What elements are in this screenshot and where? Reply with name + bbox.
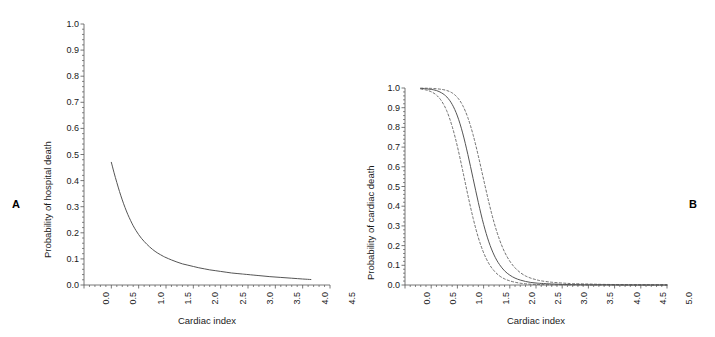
- y-tick-label: 0.2: [378, 241, 400, 251]
- x-tick-label: 1.0: [155, 292, 165, 305]
- y-tick-label: 0.4: [57, 176, 79, 186]
- y-tick-label: 0.1: [378, 260, 400, 270]
- x-tick-label: 0.0: [101, 292, 111, 305]
- y-tick-label: 0.8: [378, 122, 400, 132]
- y-tick-label: 0.9: [57, 45, 79, 55]
- panel-a-plot: [0, 0, 358, 337]
- y-tick-label: 0.3: [378, 221, 400, 231]
- y-tick-label: 0.7: [378, 142, 400, 152]
- x-tick-label: 2.0: [526, 292, 536, 305]
- y-tick-label: 0.4: [378, 201, 400, 211]
- x-tick-label: 0.0: [422, 292, 432, 305]
- panel-b: B Probability of cardiac death Cardiac i…: [357, 0, 715, 337]
- x-tick-label: 4.0: [319, 292, 329, 305]
- x-tick-label: 5.0: [684, 292, 694, 305]
- y-tick-label: 0.8: [57, 71, 79, 81]
- x-tick-label: 4.5: [347, 292, 357, 305]
- x-tick-label: 1.5: [500, 292, 510, 305]
- panel-b-plot: [357, 0, 715, 337]
- y-tick-label: 0.6: [57, 123, 79, 133]
- x-tick-label: 1.0: [474, 292, 484, 305]
- x-tick-label: 3.0: [579, 292, 589, 305]
- x-tick-label: 0.5: [448, 292, 458, 305]
- y-tick-label: 0.3: [57, 202, 79, 212]
- x-tick-label: 2.5: [237, 292, 247, 305]
- y-tick-label: 0.5: [378, 182, 400, 192]
- panel-a: A Probability of hospital death Cardiac …: [0, 0, 358, 337]
- x-tick-label: 4.0: [631, 292, 641, 305]
- x-tick-label: 1.5: [183, 292, 193, 305]
- y-tick-label: 1.0: [378, 83, 400, 93]
- x-tick-label: 3.0: [265, 292, 275, 305]
- y-tick-label: 0.2: [57, 228, 79, 238]
- x-tick-label: 0.5: [128, 292, 138, 305]
- probability-curve: [421, 88, 667, 285]
- probability-curve: [111, 162, 311, 279]
- y-tick-label: 1.0: [57, 19, 79, 29]
- y-tick-label: 0.0: [57, 280, 79, 290]
- x-tick-label: 2.0: [210, 292, 220, 305]
- x-tick-label: 2.5: [553, 292, 563, 305]
- confidence-limit-curve: [421, 89, 667, 285]
- y-tick-label: 0.9: [378, 103, 400, 113]
- y-tick-label: 0.6: [378, 162, 400, 172]
- y-tick-label: 0.5: [57, 150, 79, 160]
- figure-root: A Probability of hospital death Cardiac …: [0, 0, 715, 337]
- y-tick-label: 0.7: [57, 97, 79, 107]
- y-tick-label: 0.0: [378, 280, 400, 290]
- x-tick-label: 3.5: [605, 292, 615, 305]
- x-tick-label: 4.5: [657, 292, 667, 305]
- y-tick-label: 0.1: [57, 254, 79, 264]
- x-tick-label: 3.5: [292, 292, 302, 305]
